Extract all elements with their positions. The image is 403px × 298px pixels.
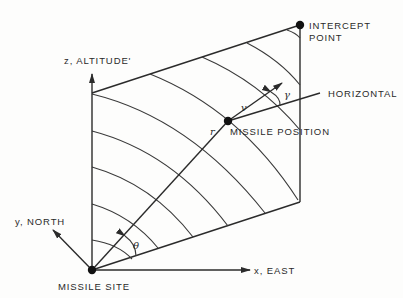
velocity-vector [228, 83, 282, 121]
theta-symbol: θ [133, 240, 139, 251]
range-arc-2 [92, 204, 158, 248]
range-arc-5 [92, 94, 265, 213]
diagram-canvas: z, ALTITUDE' y, NORTH x, EAST MISSILE SI… [0, 0, 403, 298]
intercept-point-label-line2: POINT [309, 32, 343, 43]
intercept-geometry-diagram: z, ALTITUDE' y, NORTH x, EAST MISSILE SI… [0, 0, 403, 298]
intercept-point-marker [296, 21, 304, 29]
intercept-point-label: INTERCEPT [309, 20, 371, 31]
missile-site-label: MISSILE SITE [58, 281, 130, 292]
gamma-symbol: γ [284, 89, 290, 100]
range-arc-3 [92, 167, 193, 237]
missile-position-label: MISSILE POSITION [230, 126, 330, 137]
z-axis-label: z, ALTITUDE' [64, 55, 131, 66]
range-arc-8 [247, 43, 300, 85]
range-arc-1 [92, 240, 132, 259]
y-axis [53, 230, 92, 270]
velocity-symbol: v [241, 102, 247, 113]
missile-site-point [88, 266, 96, 274]
horizontal-label: HORIZONTAL [328, 88, 398, 99]
x-axis-label: x, EAST [254, 265, 295, 276]
range-arc-9 [287, 30, 300, 38]
missile-position-point [224, 117, 232, 125]
y-axis-label: y, NORTH [15, 216, 65, 227]
